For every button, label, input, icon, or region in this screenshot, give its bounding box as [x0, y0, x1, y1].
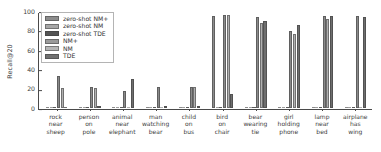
bar: [356, 16, 359, 108]
bar: [61, 88, 64, 108]
x-axis-label: girl holding phone: [272, 113, 305, 135]
bar-group: [339, 13, 372, 108]
legend-item[interactable]: NM+: [45, 38, 108, 44]
bar: [164, 106, 167, 108]
bar: [79, 107, 82, 108]
x-tick-mark: [223, 109, 224, 112]
x-tick-mark: [57, 109, 58, 112]
bar-group: [206, 13, 239, 108]
bar: [112, 107, 115, 108]
legend-item[interactable]: TDE: [45, 53, 108, 59]
bar: [326, 19, 329, 108]
bar: [90, 87, 93, 108]
legend-item[interactable]: NM: [45, 46, 108, 52]
bar: [263, 21, 266, 108]
bar: [57, 76, 60, 108]
x-axis-label: person on pole: [72, 113, 105, 135]
bar: [50, 107, 53, 108]
x-tick-mark: [289, 109, 290, 112]
x-tick-mark: [90, 109, 91, 112]
bar: [131, 79, 134, 108]
bar: [293, 34, 296, 108]
bar: [94, 88, 97, 108]
legend-label: zero-shot NM: [63, 23, 103, 29]
legend-swatch: [45, 16, 59, 21]
bar: [348, 107, 351, 108]
legend-label: zero-shot NM+: [63, 16, 108, 22]
x-tick-mark: [322, 109, 323, 112]
bar: [315, 107, 318, 108]
bar: [223, 15, 226, 108]
x-axis-labels: rock near sheepperson on poleanimal near…: [39, 113, 372, 135]
y-tick-label: 20: [27, 87, 39, 93]
bar: [193, 87, 196, 108]
bar: [249, 107, 252, 108]
x-tick-mark: [355, 109, 356, 112]
bar: [182, 107, 185, 108]
bar: [116, 107, 119, 108]
bar-chart-figure: Recall@20 020406080100 rock near sheeppe…: [0, 0, 381, 152]
bar: [123, 91, 126, 108]
bar: [157, 87, 160, 108]
bar: [227, 15, 230, 108]
bar: [197, 106, 200, 108]
bar: [149, 107, 152, 108]
y-tick-label: 0: [31, 106, 39, 112]
bar: [146, 107, 149, 108]
bar: [216, 107, 219, 108]
bar: [323, 16, 326, 108]
x-axis-label: bear wearing tie: [239, 113, 272, 135]
bar: [359, 107, 362, 108]
x-tick-mark: [189, 109, 190, 112]
x-tick-mark: [123, 109, 124, 112]
bar: [297, 25, 300, 108]
bar: [97, 106, 100, 108]
x-axis-label: lamp near bed: [305, 113, 338, 135]
legend-label: NM: [63, 46, 73, 52]
legend-swatch: [45, 31, 59, 36]
legend-item[interactable]: zero-shot TDE: [45, 31, 108, 37]
bar: [363, 17, 366, 108]
bar-group: [306, 13, 339, 108]
y-tick-label: 100: [23, 9, 39, 15]
bar: [278, 107, 281, 108]
bar: [64, 107, 67, 108]
x-axis-label: child on bus: [172, 113, 205, 135]
legend-swatch: [45, 54, 59, 59]
bar: [179, 107, 182, 108]
bar: [289, 31, 292, 108]
bar: [345, 107, 348, 108]
bar: [245, 107, 248, 108]
bar: [83, 107, 86, 108]
x-tick-mark: [256, 109, 257, 112]
x-axis-label: airplane has wing: [339, 113, 372, 135]
bar: [190, 87, 193, 108]
bar-group: [140, 13, 173, 108]
legend-item[interactable]: zero-shot NM: [45, 23, 108, 29]
bar: [330, 16, 333, 108]
bar: [256, 17, 259, 108]
legend-swatch: [45, 39, 59, 44]
legend-swatch: [45, 24, 59, 29]
y-tick-label: 80: [27, 28, 39, 34]
bar: [127, 107, 130, 108]
legend-swatch: [45, 46, 59, 51]
bar: [260, 23, 263, 108]
bar: [160, 107, 163, 108]
bar-group: [173, 13, 206, 108]
bar: [212, 16, 215, 108]
bar: [312, 107, 315, 108]
legend-label: zero-shot TDE: [63, 31, 106, 37]
x-axis-label: animal near elephant: [106, 113, 139, 135]
x-axis-label: man watching bear: [139, 113, 172, 135]
legend-item[interactable]: zero-shot NM+: [45, 16, 108, 22]
y-tick-label: 60: [27, 48, 39, 54]
bar: [230, 94, 233, 108]
bar: [46, 107, 49, 108]
bar-group: [239, 13, 272, 108]
bar-group: [272, 13, 305, 108]
chart-legend: zero-shot NM+zero-shot NMzero-shot TDENM…: [41, 12, 114, 63]
legend-label: NM+: [63, 38, 78, 44]
x-axis-label: rock near sheep: [39, 113, 72, 135]
y-tick-label: 40: [27, 67, 39, 73]
